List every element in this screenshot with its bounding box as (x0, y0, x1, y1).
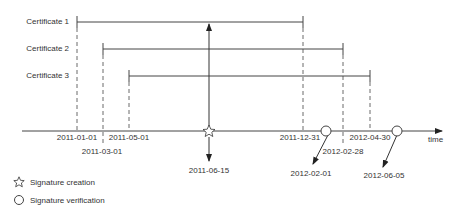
date-label-2011-05-01: 2011-05-01 (109, 133, 149, 143)
certificate-1-bar (77, 16, 303, 28)
legend-verification-label: Signature verification (30, 196, 105, 205)
star-icon (13, 176, 25, 188)
verification-2-circle (392, 126, 402, 136)
date-label-2011-12-31: 2011-12-31 (280, 133, 320, 143)
circle-icon (13, 194, 25, 206)
certificate-2-bar (103, 43, 343, 55)
date-label-2011-01-01: 2011-01-01 (57, 133, 97, 143)
verification-1-circle (321, 126, 331, 136)
date-label-2011-06-15: 2011-06-15 (189, 166, 229, 176)
certificate-2-label: Certificate 2 (9, 44, 69, 54)
certificate-3-label: Certificate 3 (9, 71, 69, 81)
certificate-3-bar (129, 70, 370, 82)
date-label-2012-02-01: 2012-02-01 (291, 169, 332, 179)
legend-verification: Signature verification (13, 194, 105, 206)
star-icon (203, 125, 215, 137)
certificate-1-label: Certificate 1 (9, 17, 69, 27)
legend-creation: Signature creation (13, 176, 95, 188)
legend-creation-label: Signature creation (30, 178, 95, 187)
date-label-2012-02-28: 2012-02-28 (323, 147, 364, 157)
date-label-2012-04-30: 2012-04-30 (350, 133, 391, 143)
date-label-2012-06-05: 2012-06-05 (364, 171, 405, 181)
time-axis-label: time (428, 135, 443, 145)
date-label-2011-03-01: 2011-03-01 (82, 147, 122, 157)
